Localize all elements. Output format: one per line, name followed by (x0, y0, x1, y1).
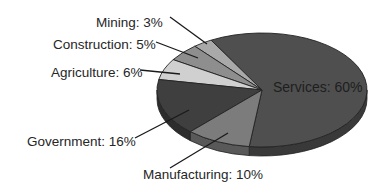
label-mining: Mining: 3% (96, 15, 163, 30)
label-manufacturing: Manufacturing: 10% (143, 167, 263, 182)
label-services: Services: 60% (273, 79, 362, 95)
label-construction: Construction: 5% (53, 37, 156, 52)
label-government: Government: 16% (27, 134, 136, 149)
leader-line (170, 17, 207, 44)
pie-chart: Services: 60% Manufacturing: 10% Governm… (0, 0, 391, 194)
label-agriculture: Agriculture: 6% (51, 65, 143, 80)
